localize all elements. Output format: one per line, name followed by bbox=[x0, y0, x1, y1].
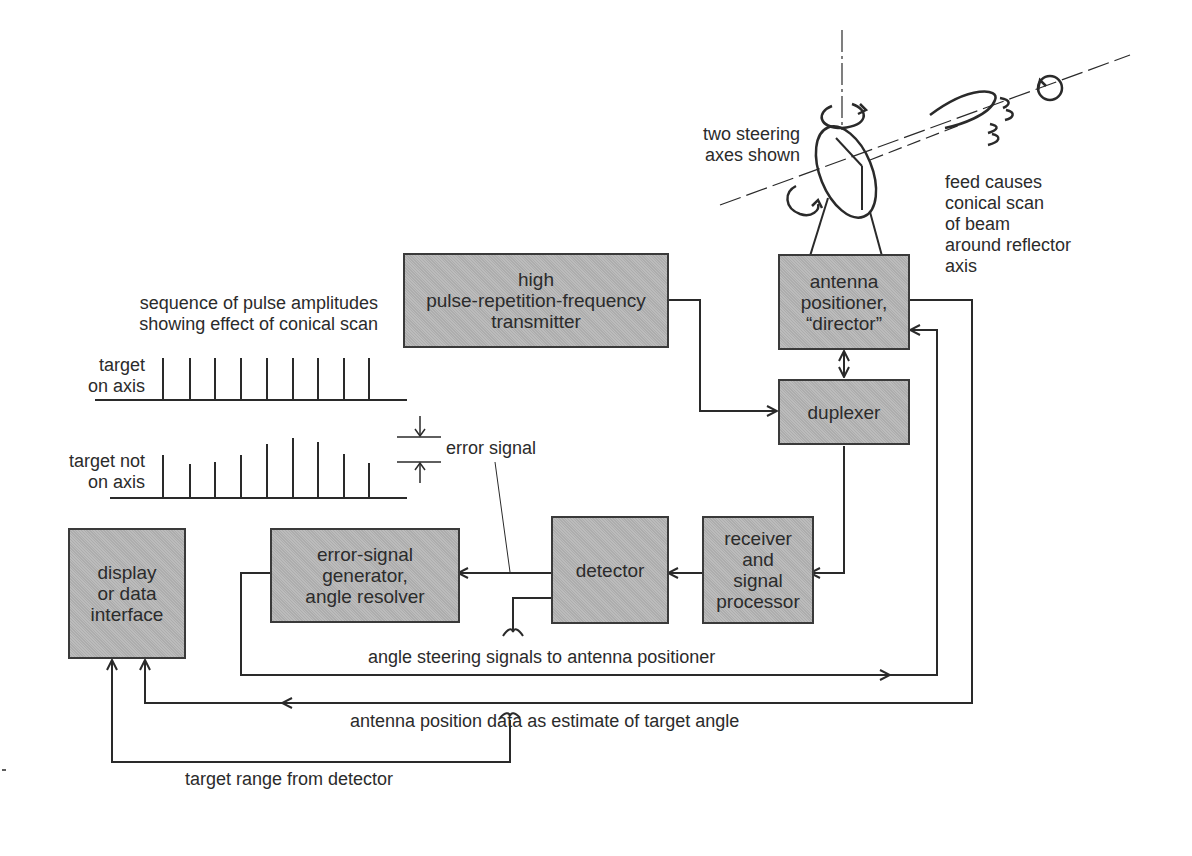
not-on-axis-label: target not on axis bbox=[30, 451, 145, 493]
display-label: display or data interface bbox=[91, 562, 164, 625]
display-block: display or data interface bbox=[68, 528, 186, 659]
position-data-label: antenna position data as estimate of tar… bbox=[350, 711, 739, 732]
target-range-label: target range from detector bbox=[185, 769, 393, 790]
detector-block: detector bbox=[551, 516, 669, 624]
angle-steering-label: angle steering signals to antenna positi… bbox=[368, 647, 715, 668]
steering-axes-note: two steering axes shown bbox=[690, 124, 800, 166]
pulse-train-not-on-axis bbox=[110, 438, 407, 498]
pulse-sequence-caption: sequence of pulse amplitudes showing eff… bbox=[60, 293, 378, 335]
detector-label: detector bbox=[576, 560, 645, 581]
transmitter-block: high pulse-repetition-frequency transmit… bbox=[403, 253, 669, 348]
error-signal-generator-label: error-signal generator, angle resolver bbox=[305, 544, 424, 607]
antenna-positioner-label: antenna positioner, “director” bbox=[801, 271, 888, 334]
receiver-block: receiver and signal processor bbox=[702, 516, 814, 624]
antenna-positioner-block: antenna positioner, “director” bbox=[778, 254, 910, 350]
on-axis-label: target on axis bbox=[50, 355, 145, 397]
error-signal-generator-block: error-signal generator, angle resolver bbox=[270, 528, 460, 623]
duplexer-label: duplexer bbox=[808, 402, 881, 423]
transmitter-label: high pulse-repetition-frequency transmit… bbox=[426, 269, 646, 332]
error-signal-label: error signal bbox=[446, 438, 536, 459]
feed-note: feed causes conical scan of beam around … bbox=[945, 172, 1095, 277]
receiver-label: receiver and signal processor bbox=[716, 528, 799, 612]
duplexer-block: duplexer bbox=[778, 379, 910, 445]
